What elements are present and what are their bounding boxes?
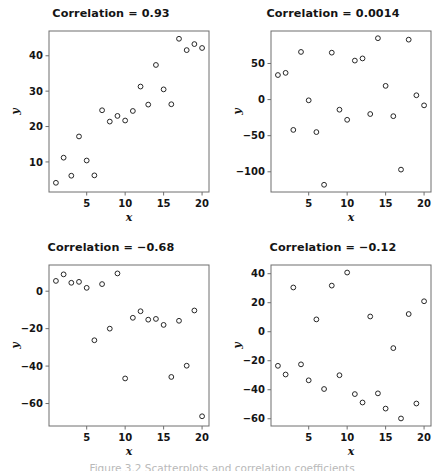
data-point: [100, 108, 105, 113]
data-point: [200, 414, 205, 419]
data-point: [414, 93, 419, 98]
svg-text:20: 20: [195, 198, 209, 209]
svg-text:40: 40: [29, 50, 43, 61]
data-point: [177, 318, 182, 323]
data-point: [54, 279, 59, 284]
data-point: [92, 338, 97, 343]
data-point: [192, 308, 197, 313]
x-axis-label: x: [125, 211, 133, 224]
data-point: [399, 167, 404, 172]
y-axis-label: y: [9, 107, 22, 116]
data-point: [352, 392, 357, 397]
svg-text:10: 10: [118, 198, 132, 209]
data-point: [368, 314, 373, 319]
svg-text:5: 5: [305, 198, 312, 209]
plot-frame: [49, 31, 209, 192]
svg-text:20: 20: [195, 432, 209, 443]
data-point: [276, 73, 281, 78]
svg-text:0: 0: [258, 94, 265, 105]
data-point: [360, 400, 365, 405]
data-point: [422, 103, 427, 108]
data-point: [107, 119, 112, 124]
panel-2-plot: 500−50−1005101520xy: [222, 0, 444, 234]
svg-text:−60: −60: [243, 413, 265, 424]
y-axis-label: y: [9, 341, 22, 350]
data-point: [276, 363, 281, 368]
svg-text:−50: −50: [243, 130, 265, 141]
data-point: [177, 36, 182, 41]
data-point: [376, 391, 381, 396]
svg-text:15: 15: [379, 432, 393, 443]
y-axis-label: y: [231, 341, 244, 350]
svg-text:−100: −100: [236, 166, 265, 177]
svg-text:20: 20: [417, 432, 431, 443]
svg-text:15: 15: [379, 198, 393, 209]
data-point: [314, 317, 319, 322]
data-point: [329, 283, 334, 288]
data-point: [69, 280, 74, 285]
data-point: [337, 107, 342, 112]
data-point: [92, 173, 97, 178]
svg-text:10: 10: [340, 432, 354, 443]
data-point: [383, 406, 388, 411]
data-point: [161, 323, 166, 328]
data-point: [399, 416, 404, 421]
data-point: [130, 109, 135, 114]
data-point: [61, 155, 66, 160]
data-point: [314, 130, 319, 135]
data-point: [283, 372, 288, 377]
data-point: [77, 279, 82, 284]
scatter-panel-3: Correlation = −0.68 0−20−40−605101520xy: [0, 234, 222, 468]
data-point: [422, 299, 427, 304]
panel-1-plot: 102030405101520xy: [0, 0, 222, 234]
data-point: [115, 114, 120, 119]
data-point: [306, 98, 311, 103]
data-point: [107, 326, 112, 331]
data-point: [169, 102, 174, 107]
data-point: [406, 312, 411, 317]
data-point: [154, 317, 159, 322]
data-point: [184, 48, 189, 53]
svg-text:10: 10: [29, 157, 43, 168]
x-axis-label: x: [347, 445, 355, 458]
data-point: [322, 387, 327, 392]
svg-text:10: 10: [118, 432, 132, 443]
x-axis-label: x: [125, 445, 133, 458]
data-point: [368, 112, 373, 117]
svg-text:40: 40: [251, 268, 265, 279]
svg-text:5: 5: [83, 198, 90, 209]
data-point: [200, 46, 205, 51]
data-point: [84, 158, 89, 163]
svg-text:−20: −20: [21, 323, 43, 334]
svg-text:30: 30: [29, 86, 43, 97]
plot-frame: [49, 265, 209, 426]
data-point: [138, 309, 143, 314]
data-point: [115, 271, 120, 276]
y-axis-label: y: [231, 107, 244, 116]
data-point: [352, 58, 357, 63]
data-point: [322, 182, 327, 187]
data-point: [146, 317, 151, 322]
svg-text:5: 5: [83, 432, 90, 443]
plot-frame: [271, 31, 431, 192]
data-point: [54, 180, 59, 185]
data-point: [123, 376, 128, 381]
data-point: [283, 70, 288, 75]
svg-text:5: 5: [305, 432, 312, 443]
svg-text:−20: −20: [243, 355, 265, 366]
svg-text:20: 20: [417, 198, 431, 209]
data-point: [291, 285, 296, 290]
data-point: [130, 315, 135, 320]
data-point: [100, 282, 105, 287]
data-point: [414, 401, 419, 406]
data-point: [146, 102, 151, 107]
data-point: [345, 270, 350, 275]
panel-4-plot: 40200−20−40−605101520xy: [222, 234, 444, 468]
data-point: [161, 87, 166, 92]
data-point: [69, 173, 74, 178]
data-point: [138, 84, 143, 89]
svg-text:−60: −60: [21, 398, 43, 409]
data-point: [406, 37, 411, 42]
svg-text:20: 20: [251, 297, 265, 308]
data-point: [61, 272, 66, 277]
